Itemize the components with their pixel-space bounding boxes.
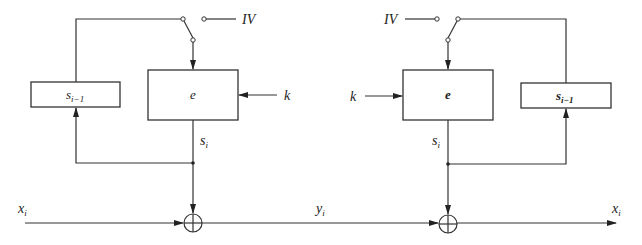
iv-label: IV <box>383 12 399 27</box>
keystream-label: si <box>432 133 440 150</box>
cipher-label: e <box>445 87 451 102</box>
key-label: k <box>350 89 357 104</box>
xor-icon <box>439 215 457 233</box>
xor-icon <box>184 214 202 232</box>
junction-dot <box>191 161 195 165</box>
keystream-label: si <box>200 133 208 150</box>
cipher-label: e <box>190 87 196 102</box>
iv-switch[interactable] <box>435 17 460 42</box>
decryptor: IV e k si−1 si xi <box>350 12 621 233</box>
plaintext-input-label: xi <box>17 201 27 218</box>
junction-dot <box>446 162 450 166</box>
iv-label: IV <box>241 12 257 27</box>
key-label: k <box>284 88 291 103</box>
ciphertext-label: yi <box>314 201 325 218</box>
cfb-diagram: IV e k si−1 si xi yi <box>0 0 642 245</box>
plaintext-output-label: xi <box>611 201 621 218</box>
iv-switch[interactable] <box>181 17 206 42</box>
encryptor: IV e k si−1 si xi <box>17 12 291 232</box>
